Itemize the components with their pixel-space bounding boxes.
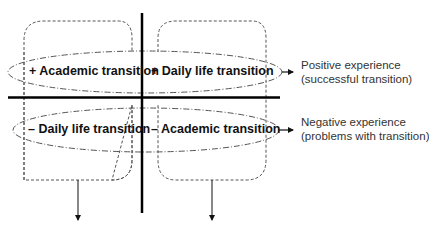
right-group-outline bbox=[158, 21, 266, 180]
positive-outcome: Positive experience (successful transiti… bbox=[301, 59, 412, 86]
left-group-outline bbox=[24, 21, 132, 180]
positive-outcome-line2: (successful transition) bbox=[301, 73, 412, 87]
negative-outcome-line2: (problems with transition) bbox=[301, 130, 429, 144]
positive-outcome-line1: Positive experience bbox=[301, 59, 412, 73]
label-plus-daily-life: + Daily life transition bbox=[151, 64, 274, 78]
negative-outcome: Negative experience (problems with trans… bbox=[301, 116, 429, 143]
label-minus-academic: – Academic transition bbox=[151, 122, 280, 136]
label-minus-daily-life: – Daily life transition bbox=[28, 122, 150, 136]
label-plus-academic: + Academic transition bbox=[29, 64, 159, 78]
negative-outcome-line1: Negative experience bbox=[301, 116, 429, 130]
